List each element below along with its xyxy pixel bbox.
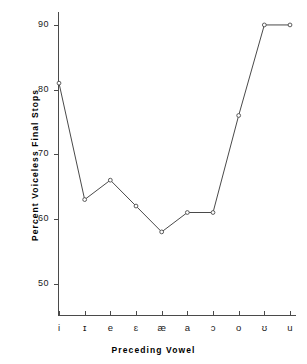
y-axis-tick-label: 60 (38, 213, 49, 223)
y-axis-tick-label: 50 (38, 278, 49, 288)
y-axis-tick-label: 70 (38, 148, 49, 158)
x-axis-tick-label: ʊ (262, 322, 267, 333)
x-axis-title: Preceding Vowel (0, 345, 307, 355)
data-point (57, 81, 61, 85)
x-axis-tick-label: æ (157, 322, 165, 333)
data-point (185, 211, 189, 215)
data-point (262, 23, 266, 27)
data-point (134, 204, 138, 208)
data-series (58, 12, 296, 316)
data-point (83, 198, 87, 202)
y-axis-tick-label: 80 (38, 84, 49, 94)
plot-area: 5060708090 iɪeɛæaɔoʊu (58, 12, 296, 316)
y-axis-title: Percent Voiceless Final Stops (30, 45, 40, 285)
chart-figure: Percent Voiceless Final Stops 5060708090… (0, 0, 307, 364)
data-point (288, 23, 292, 27)
x-axis-tick-label: i (58, 322, 60, 333)
x-axis-tick-label: ɛ (134, 322, 138, 333)
series-line (59, 25, 290, 232)
data-point (237, 114, 241, 118)
x-axis-tick-label: o (236, 322, 241, 333)
data-point (160, 230, 164, 234)
x-axis-tick-label: u (287, 322, 292, 333)
x-axis-tick-label: ɔ (211, 322, 216, 333)
data-point (108, 178, 112, 182)
x-axis-tick-label: a (185, 322, 190, 333)
x-axis-tick-label: ɪ (83, 322, 86, 333)
data-point (211, 211, 215, 215)
y-axis-tick-label: 90 (38, 19, 49, 29)
series-markers (57, 23, 292, 234)
x-axis-tick-label: e (108, 322, 113, 333)
